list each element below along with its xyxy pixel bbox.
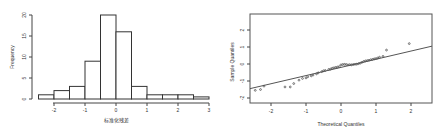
histogram-bar: [132, 86, 148, 99]
histogram-bar: [194, 97, 210, 99]
histogram-x-label: 标准化残差: [104, 117, 129, 124]
y-tick-label: 0: [239, 62, 245, 65]
qq-x-ticks: -2-1012: [269, 103, 413, 114]
qq-plot-chart: -2-1012 -2-1012 Theoretical Quantiles Sa…: [229, 14, 432, 127]
x-tick-label: 1: [146, 107, 149, 113]
y-tick-label: 15: [21, 33, 27, 39]
x-tick-label: -2: [269, 108, 274, 114]
histogram-bar: [178, 95, 194, 99]
y-tick-label: -1: [239, 79, 245, 84]
y-tick-label: 20: [21, 12, 27, 18]
histogram-y-ticks: 05101520: [21, 12, 32, 100]
x-tick-label: -1: [304, 108, 309, 114]
x-tick-label: 3: [208, 107, 211, 113]
histogram-bar: [147, 95, 163, 99]
histogram-bar: [85, 61, 101, 99]
qq-y-ticks: -2-1012: [239, 28, 250, 100]
histogram-chart: 05101520 -2-10123 标准化残差 Frequency: [9, 12, 211, 124]
x-tick-label: -2: [52, 107, 57, 113]
histogram-bar: [163, 95, 179, 99]
y-tick-label: 2: [239, 28, 245, 31]
x-tick-label: -1: [83, 107, 88, 113]
histogram-x-ticks: -2-10123: [52, 103, 211, 113]
histogram-bar: [101, 15, 117, 99]
qq-x-label: Theoretical Quantiles: [317, 121, 365, 127]
qq-plot-frame: [250, 14, 432, 103]
x-tick-label: 0: [115, 107, 118, 113]
histogram-bar: [116, 32, 132, 99]
y-tick-label: 10: [21, 54, 27, 60]
histogram-bar: [54, 91, 70, 99]
y-tick-label: 5: [21, 76, 27, 79]
qq-y-label: Sample Quantiles: [229, 42, 235, 82]
x-tick-label: 1: [375, 108, 378, 114]
histogram-bar: [70, 86, 86, 99]
y-tick-label: 0: [21, 97, 27, 100]
y-tick-label: 1: [239, 45, 245, 48]
histogram-bar: [39, 95, 55, 99]
histogram-bars: [39, 15, 210, 99]
x-tick-label: 2: [410, 108, 413, 114]
x-tick-label: 0: [340, 108, 343, 114]
figure: 05101520 -2-10123 标准化残差 Frequency -2-101…: [0, 0, 444, 133]
y-tick-label: -2: [239, 96, 245, 101]
x-tick-label: 2: [177, 107, 180, 113]
histogram-y-label: Frequency: [9, 45, 15, 69]
